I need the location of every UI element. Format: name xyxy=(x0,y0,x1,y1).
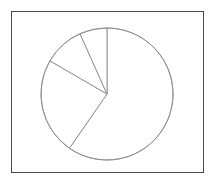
pie-slice-group xyxy=(41,28,173,160)
pie-chart-figure xyxy=(0,0,216,187)
pie-chart-svg xyxy=(0,0,216,187)
